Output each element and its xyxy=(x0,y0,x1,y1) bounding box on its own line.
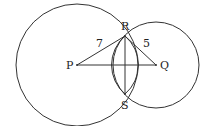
label-q: Q xyxy=(160,59,169,72)
label-length-rq: 5 xyxy=(143,37,150,50)
label-r: R xyxy=(121,20,130,33)
point-q xyxy=(155,64,157,66)
label-s: S xyxy=(121,99,129,112)
point-r xyxy=(124,35,126,37)
label-length-pr: 7 xyxy=(96,37,103,50)
segment-rq xyxy=(125,36,156,65)
label-p: P xyxy=(66,59,74,72)
point-s xyxy=(124,93,126,95)
geometry-diagram: P Q R S 7 5 xyxy=(0,0,211,126)
point-p xyxy=(76,64,78,66)
